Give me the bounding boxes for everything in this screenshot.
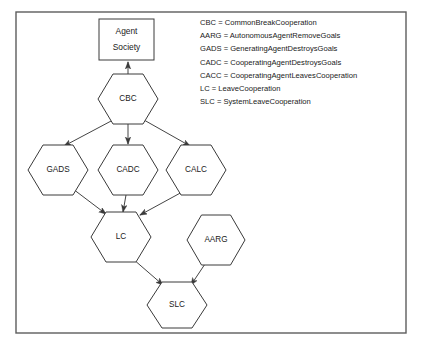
agent-society-diagram: Agent Society CBCGADSCADCCALCLCAARGSLC C… [0, 0, 421, 347]
node-label-cbc: CBC [119, 94, 136, 103]
legend-entry: SLC = SystemLeaveCooperation [200, 97, 311, 106]
legend-entry: AARG = AutonomousAgentRemoveGoals [200, 31, 341, 40]
agent-society-label-line2: Society [113, 42, 141, 52]
agent-society-label-line1: Agent [116, 26, 139, 36]
legend-entry: CADC = CooperatingAgentDestroysGoals [200, 58, 341, 67]
diagram-figure: Agent Society CBCGADSCADCCALCLCAARGSLC C… [0, 0, 421, 347]
agent-society-rect [99, 19, 154, 60]
legend-entry: CBC = CommonBreakCooperation [200, 18, 317, 27]
node-label-calc: CALC [185, 165, 207, 174]
node-label-cadc: CADC [116, 165, 139, 174]
agent-society-box: Agent Society [99, 19, 154, 60]
legend-entry: CACC = CooperatingAgentLeavesCooperation [200, 71, 357, 80]
legend-entry: LC = LeaveCooperation [200, 84, 280, 93]
legend-entry: GADS = GeneratingAgentDestroysGoals [200, 44, 338, 53]
node-label-slc: SLC [169, 300, 185, 309]
node-label-lc: LC [116, 232, 127, 241]
node-label-aarg: AARG [204, 235, 227, 244]
node-label-gads: GADS [46, 165, 70, 174]
